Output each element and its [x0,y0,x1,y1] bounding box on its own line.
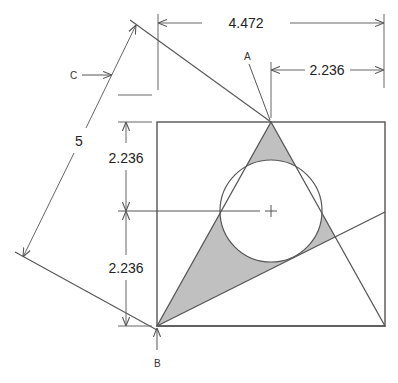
dimension-upper-height-label: 2.236 [108,150,143,166]
dimension-half-width-label: 2.236 [309,62,344,78]
dimension-lower-height-label: 2.236 [108,260,143,276]
dimension-vertical [117,94,152,326]
label-c: C [70,70,77,81]
label-a: A [244,51,251,62]
dimension-top-width-label: 4.472 [228,15,263,31]
slant-line-top [130,20,271,122]
construction-diagram: 4.472 2.236 A 5 C 2.236 2.236 B [0,0,398,383]
leader-a [249,64,270,120]
dimension-slant-label: 5 [75,133,83,149]
label-b: B [154,358,161,369]
